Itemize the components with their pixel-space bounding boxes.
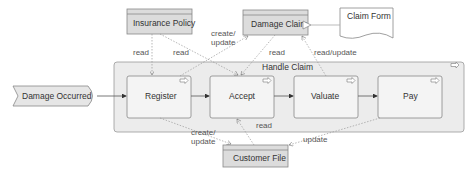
edge-label: read <box>256 121 272 130</box>
data-label: Damage Claim <box>251 19 307 29</box>
activity-valuate[interactable]: Valuate <box>294 76 358 118</box>
edge-label: update <box>191 137 216 146</box>
data-insurance-policy[interactable]: Insurance Policy <box>127 9 196 34</box>
data-damage-claim[interactable]: Damage Claim <box>243 10 308 35</box>
edge-label: read <box>133 48 149 57</box>
edge-label: read/update <box>314 48 357 57</box>
activity-label: Accept <box>229 91 256 101</box>
edge-label: update <box>303 135 328 144</box>
edge-label: update <box>211 38 236 47</box>
event-label: Damage Occurred <box>22 91 92 101</box>
activity-accept[interactable]: Accept <box>210 76 274 118</box>
activity-register[interactable]: Register <box>127 76 191 118</box>
edge-label: read <box>173 48 189 57</box>
document-claim-form[interactable]: Claim Form <box>340 8 393 38</box>
event-damage-occurred[interactable]: Damage Occurred <box>13 86 93 106</box>
group-label: Handle Claim <box>262 62 313 72</box>
data-label: Insurance Policy <box>133 18 196 28</box>
activity-label: Pay <box>403 91 418 101</box>
edge-label: read <box>269 48 285 57</box>
edge-label: create/ <box>191 128 216 137</box>
document-label: Claim Form <box>347 11 391 21</box>
data-customer-file[interactable]: Customer File <box>223 145 288 167</box>
data-label: Customer File <box>233 153 286 163</box>
activity-label: Valuate <box>311 91 339 101</box>
edge-label: create/ <box>211 29 236 38</box>
activity-label: Register <box>145 91 177 101</box>
activity-pay[interactable]: Pay <box>378 76 442 118</box>
